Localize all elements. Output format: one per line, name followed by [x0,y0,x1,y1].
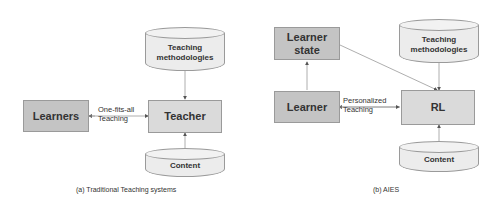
one-fits-all-teaching-label: One-fits-all Teaching [98,105,134,124]
caption-b: (b) AIES [373,186,399,193]
teaching-methodologies-cylinder-a: Teaching methodologies [145,27,225,70]
content-cylinder-b: Content [399,141,479,171]
rl-node: RL [401,90,475,125]
teacher-label: Teacher [164,110,205,123]
teacher-node: Teacher [148,100,222,133]
learner-node: Learner [274,91,340,123]
learners-node: Learners [23,100,89,132]
teaching-methodologies-cylinder-b: Teaching methodologies [399,19,479,62]
rl-label: RL [431,101,446,114]
personalized-teaching-label: Personalized Teaching [343,96,386,115]
learners-label: Learners [33,110,79,123]
content-cylinder-a: Content [145,148,225,176]
caption-a: (a) Traditional Teaching systems [76,186,176,193]
learner-state-node: Learner state [274,27,340,60]
learner-label: Learner [287,101,327,114]
